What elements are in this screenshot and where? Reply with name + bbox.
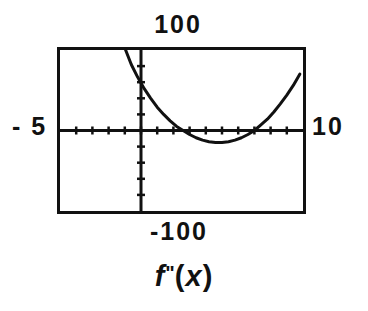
- calculator-screen: [57, 47, 306, 214]
- x-max-label: 10: [312, 114, 344, 139]
- figure-caption: f"(x): [0, 262, 368, 291]
- caption-function-name: f: [155, 260, 166, 292]
- y-max-label: 100: [0, 12, 368, 37]
- caption-close-paren: ): [203, 260, 214, 292]
- figure-container: 100 - 5 10 -100 f"(x): [0, 0, 368, 311]
- caption-open-paren: (: [175, 260, 186, 292]
- caption-variable: x: [186, 260, 203, 292]
- x-min-label: - 5: [12, 114, 47, 139]
- plot-area: [60, 50, 303, 211]
- caption-double-prime: ": [165, 262, 174, 284]
- y-min-label: -100: [0, 219, 368, 244]
- function-curve: [126, 50, 300, 143]
